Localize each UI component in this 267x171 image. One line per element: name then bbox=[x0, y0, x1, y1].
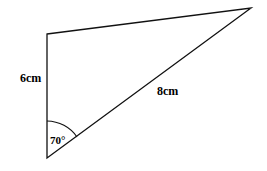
angle-label: 70° bbox=[50, 134, 65, 146]
left-side-label: 6cm bbox=[20, 71, 41, 85]
triangle-shape bbox=[47, 8, 251, 158]
hypotenuse-label: 8cm bbox=[157, 84, 178, 98]
triangle-diagram: 6cm 8cm 70° bbox=[0, 0, 267, 171]
